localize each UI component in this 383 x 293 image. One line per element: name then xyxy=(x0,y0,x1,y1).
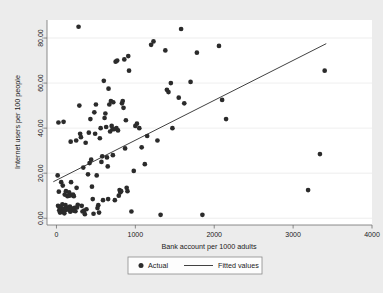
data-point xyxy=(91,211,96,216)
data-point xyxy=(56,120,61,125)
y-tick-label: 20.00 xyxy=(37,164,44,182)
y-tick-label: 40.00 xyxy=(37,119,44,137)
data-point xyxy=(92,110,97,115)
data-point xyxy=(166,90,171,95)
data-point xyxy=(318,152,323,157)
x-tick-label: 2000 xyxy=(206,231,222,238)
data-point xyxy=(119,189,124,194)
data-point xyxy=(104,125,109,130)
data-point xyxy=(98,126,103,131)
data-point xyxy=(151,39,156,44)
data-point xyxy=(125,189,130,194)
data-point xyxy=(188,80,193,85)
data-point xyxy=(93,131,98,136)
data-point xyxy=(112,198,117,203)
data-point xyxy=(120,99,125,104)
data-point xyxy=(74,185,79,190)
data-point xyxy=(55,173,60,178)
data-point xyxy=(103,111,108,116)
x-tick-label: 3000 xyxy=(285,231,301,238)
data-point xyxy=(169,81,174,86)
data-point xyxy=(155,138,160,143)
data-point xyxy=(71,194,76,199)
data-point xyxy=(101,78,106,83)
data-point xyxy=(195,50,200,55)
data-point xyxy=(102,116,107,121)
legend-label-fitted-values: Fitted values xyxy=(218,261,259,270)
data-point xyxy=(306,188,311,193)
x-axis-title: Bank account per 1000 adults xyxy=(161,242,257,251)
data-point xyxy=(83,212,88,217)
data-point xyxy=(179,27,184,32)
y-tick-label: 60.00 xyxy=(37,74,44,92)
data-point xyxy=(131,169,136,174)
data-point xyxy=(98,136,103,141)
data-point xyxy=(77,103,82,108)
data-point xyxy=(163,48,168,53)
data-point xyxy=(122,57,127,62)
x-tick-label: 0 xyxy=(55,231,59,238)
data-point xyxy=(56,189,61,194)
data-point xyxy=(68,139,73,144)
data-point xyxy=(86,172,91,177)
data-point xyxy=(111,100,116,105)
x-tick-label: 1000 xyxy=(128,231,144,238)
data-point xyxy=(115,58,120,63)
data-point xyxy=(121,106,126,111)
data-point xyxy=(61,119,66,124)
data-point xyxy=(200,213,205,218)
data-point xyxy=(76,24,81,29)
data-point xyxy=(69,180,74,185)
data-point xyxy=(60,183,65,188)
y-tick-label: 0.00 xyxy=(37,211,44,225)
data-point xyxy=(79,135,84,140)
data-point xyxy=(111,153,116,158)
data-point xyxy=(176,95,181,100)
legend-label-actual: Actual xyxy=(148,261,168,270)
data-point xyxy=(75,202,80,207)
data-point xyxy=(105,164,110,169)
data-point xyxy=(90,197,95,202)
x-tick-label: 4000 xyxy=(364,231,380,238)
data-point xyxy=(220,98,225,103)
data-point xyxy=(139,145,144,150)
data-point xyxy=(106,86,111,91)
data-point xyxy=(79,204,84,209)
scatter-chart-figure: 0.0020.0040.0060.0080.00 010002000300040… xyxy=(0,0,383,293)
data-point xyxy=(99,160,104,165)
data-point xyxy=(84,207,89,212)
data-point xyxy=(142,162,147,167)
data-point xyxy=(90,184,95,189)
data-point xyxy=(74,138,79,143)
data-point xyxy=(88,117,93,122)
data-point xyxy=(106,197,111,202)
data-point xyxy=(116,128,121,133)
data-point xyxy=(135,121,140,126)
data-point xyxy=(224,117,229,122)
data-point xyxy=(94,102,99,107)
data-point xyxy=(127,68,132,73)
data-point xyxy=(322,68,327,73)
data-point xyxy=(158,213,163,218)
data-point xyxy=(129,209,134,214)
data-point xyxy=(101,198,106,203)
data-point xyxy=(182,101,187,106)
data-point xyxy=(86,130,91,135)
data-point xyxy=(94,173,99,178)
data-point xyxy=(83,140,88,145)
data-point xyxy=(217,44,222,49)
legend-marker-actual xyxy=(139,263,144,268)
plot-area-background xyxy=(47,20,372,225)
data-point xyxy=(137,126,142,131)
data-point xyxy=(170,126,175,131)
y-tick-label: 80.00 xyxy=(37,29,44,47)
data-point xyxy=(96,203,101,208)
data-point xyxy=(124,118,129,123)
data-point xyxy=(126,54,131,59)
y-axis-title: Internet users per 100 people xyxy=(13,75,22,169)
data-point xyxy=(97,210,102,215)
